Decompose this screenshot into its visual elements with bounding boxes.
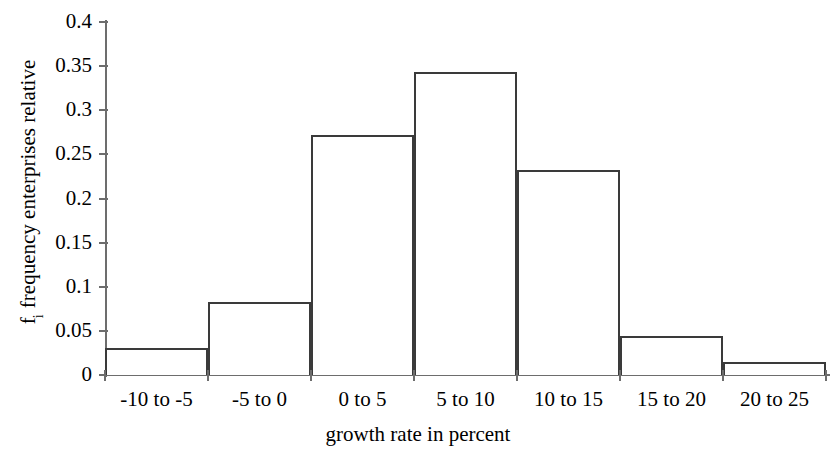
x-tick-label: 15 to 20 xyxy=(620,387,723,411)
x-tick xyxy=(516,370,518,381)
bar xyxy=(723,362,826,375)
x-tick xyxy=(413,370,415,381)
x-tick-label: -5 to 0 xyxy=(208,387,311,411)
x-tick xyxy=(825,370,827,381)
x-tick-label: -10 to -5 xyxy=(105,387,208,411)
x-tick xyxy=(207,370,209,381)
y-tick-label-group: 0.40.350.30.250.20.150.10.050 xyxy=(30,0,92,461)
y-axis-line xyxy=(105,20,107,377)
x-tick xyxy=(722,370,724,381)
bar xyxy=(414,72,517,375)
x-tick-label: 10 to 15 xyxy=(517,387,620,411)
bar xyxy=(105,348,208,375)
x-tick xyxy=(619,370,621,381)
y-tick-label: 0.3 xyxy=(36,99,92,120)
x-tick-label: 5 to 10 xyxy=(414,387,517,411)
bar xyxy=(208,302,311,375)
y-tick-label: 0 xyxy=(36,364,92,385)
bar xyxy=(620,336,723,375)
y-tick-label: 0.15 xyxy=(36,232,92,253)
bar xyxy=(311,135,414,375)
y-tick-label: 0.1 xyxy=(36,276,92,297)
x-axis-title: growth rate in percent xyxy=(0,422,836,446)
y-tick-label: 0.35 xyxy=(36,55,92,76)
x-tick-label: 20 to 25 xyxy=(723,387,826,411)
y-tick-label: 0.2 xyxy=(36,188,92,209)
histogram-figure: fi frequency enterprises relative 0.40.3… xyxy=(0,0,836,461)
x-tick xyxy=(310,370,312,381)
bar xyxy=(517,170,620,375)
y-tick-label: 0.05 xyxy=(36,320,92,341)
y-tick-label: 0.25 xyxy=(36,143,92,164)
x-tick-label: 0 to 5 xyxy=(311,387,414,411)
x-tick xyxy=(104,370,106,381)
y-tick-label: 0.4 xyxy=(36,11,92,32)
